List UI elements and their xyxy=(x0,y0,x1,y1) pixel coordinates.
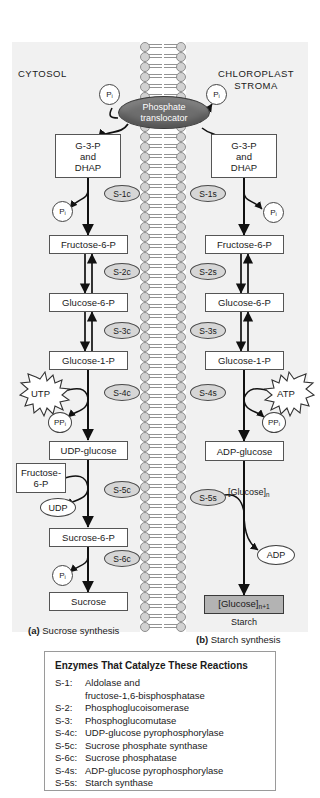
lipid-tail-icon xyxy=(149,564,162,570)
udp-glucose-label: UDP-glucose xyxy=(61,445,117,456)
enzyme-s4c-label: S-4c xyxy=(113,388,130,398)
enzyme-s4s-label: S-4s xyxy=(199,388,216,398)
fructose-6p-label: Fructose-6-P xyxy=(217,239,272,250)
lipid-tail-icon xyxy=(164,554,177,560)
udp-label: UDP xyxy=(48,503,67,513)
lipid-tail-icon xyxy=(164,354,177,360)
lipid-head-icon xyxy=(176,272,186,282)
lipid-tail-icon xyxy=(149,244,162,250)
metabolite-glucose-6p-stroma: Glucose-6-P xyxy=(205,293,284,312)
lipid-tail-icon xyxy=(164,494,177,500)
lipid-tail-icon xyxy=(149,384,162,390)
lipid-tail-icon xyxy=(164,474,177,480)
lipid-tail-icon xyxy=(149,364,162,370)
enzyme-s3s-label: S-3s xyxy=(199,326,216,336)
legend-entry: S-3:Phosphoglucomutase xyxy=(55,715,265,728)
caption-a-text: Sucrose synthesis xyxy=(42,625,119,636)
lipid-head-icon xyxy=(176,192,186,202)
lipid-tail-icon xyxy=(149,144,162,150)
lipid-head-icon xyxy=(176,542,186,552)
glucose-1p-label: Glucose-1-P xyxy=(62,355,115,366)
lipid-tail-icon xyxy=(164,414,177,420)
lipid-tail-icon xyxy=(149,84,162,90)
ppi-label: PP xyxy=(54,418,65,427)
udp-product: UDP xyxy=(40,498,76,517)
lipid-tail-icon xyxy=(149,474,162,480)
lipid-head-icon xyxy=(176,552,186,562)
lipid-head-icon xyxy=(176,422,186,432)
g3p-line2: and xyxy=(236,151,252,162)
lipid-tail-icon xyxy=(149,434,162,440)
atp-label: ATP xyxy=(277,388,295,399)
metabolite-fructose-6p-stroma: Fructose-6-P xyxy=(205,235,284,254)
enzyme-s2c: S-2c xyxy=(104,263,140,280)
lipid-tail-icon xyxy=(164,324,177,330)
lipid-head-icon xyxy=(176,582,186,592)
metabolite-sucrose: Sucrose xyxy=(49,592,128,611)
lipid-tail-icon xyxy=(149,274,162,280)
lipid-tail-icon xyxy=(164,584,177,590)
lipid-head-icon xyxy=(176,602,186,612)
lipid-head-icon xyxy=(176,352,186,362)
enzyme-s3c-label: S-3c xyxy=(113,326,130,336)
lipid-tail-icon xyxy=(149,534,162,540)
lipid-tail-icon xyxy=(164,144,177,150)
lipid-tail-icon xyxy=(164,294,177,300)
lipid-tail-icon xyxy=(149,614,162,620)
lipid-tail-icon xyxy=(164,314,177,320)
lipid-tail-icon xyxy=(164,164,177,170)
legend-entry-key: S-5c: xyxy=(55,740,85,753)
legend-entry-value: Sucrose phosphatase xyxy=(85,752,265,765)
lipid-tail-icon xyxy=(149,544,162,550)
lipid-tail-icon xyxy=(164,204,177,210)
ppi-label: PP xyxy=(268,418,279,427)
lipid-tail-icon xyxy=(164,424,177,430)
lipid-tail-icon xyxy=(149,574,162,580)
lipid-tail-icon xyxy=(149,404,162,410)
lipid-tail-icon xyxy=(164,374,177,380)
lipid-head-icon xyxy=(176,302,186,312)
translocator-line1: Phosphate xyxy=(142,102,185,112)
lipid-tail-icon xyxy=(149,204,162,210)
lipid-head-icon xyxy=(176,222,186,232)
lipid-head-icon xyxy=(176,382,186,392)
lipid-head-icon xyxy=(176,342,186,352)
sucrose-label: Sucrose xyxy=(71,596,106,607)
lipid-head-icon xyxy=(176,612,186,622)
g3p-line2: and xyxy=(80,151,96,162)
legend-entry-key: S-5s: xyxy=(55,777,85,790)
pi-cytosol-s6c: Pi xyxy=(52,565,73,586)
lipid-tail-icon xyxy=(164,194,177,200)
lipid-head-icon xyxy=(176,172,186,182)
enzyme-s3s: S-3s xyxy=(190,322,226,339)
glucose-n-subscript: n xyxy=(266,491,270,498)
lipid-tail-icon xyxy=(149,484,162,490)
lipid-tail-icon xyxy=(164,154,177,160)
legend-entry-key: S-4s: xyxy=(55,765,85,778)
enzyme-s6c: S-6c xyxy=(104,550,140,567)
legend-entry-value: Phosphoglucoisomerase xyxy=(85,702,265,715)
lipid-tail-icon xyxy=(164,464,177,470)
enzyme-legend-box: Enzymes That Catalyze These Reactions S-… xyxy=(44,651,276,791)
lipid-tail-icon xyxy=(164,594,177,600)
lipid-head-icon xyxy=(176,502,186,512)
utp-label: UTP xyxy=(31,388,50,399)
lipid-tail-icon xyxy=(164,264,177,270)
starch-label: Starch xyxy=(204,617,284,627)
lipid-tail-icon xyxy=(164,214,177,220)
lipid-head-icon xyxy=(176,62,186,72)
legend-entry-value: UDP-glucose pyrophosphorylase xyxy=(85,727,265,740)
lipid-head-icon xyxy=(176,262,186,272)
lipid-head-icon xyxy=(176,142,186,152)
metabolite-glucose-1p-cytosol: Glucose-1-P xyxy=(49,351,128,370)
lipid-tail-icon xyxy=(164,74,177,80)
lipid-tail-icon xyxy=(149,604,162,610)
lipid-head-icon xyxy=(176,132,186,142)
lipid-tail-icon xyxy=(149,184,162,190)
metabolite-g3p-dhap-cytosol: G-3-P and DHAP xyxy=(55,134,121,178)
pi-subscript: i xyxy=(65,574,66,580)
lipid-tail-icon xyxy=(149,444,162,450)
lipid-head-icon xyxy=(176,462,186,472)
lipid-head-icon xyxy=(176,392,186,402)
g3p-line1: G-3-P xyxy=(231,140,256,151)
